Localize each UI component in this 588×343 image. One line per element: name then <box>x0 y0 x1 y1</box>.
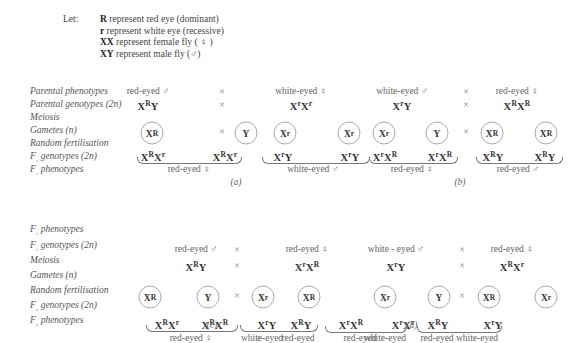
female-genotype: XrXr <box>290 99 313 112</box>
group-brace <box>240 325 318 332</box>
gamete-circle: XR <box>481 122 504 145</box>
cross-symbol: × <box>234 290 240 301</box>
row-label: Meiosis <box>30 255 60 265</box>
phenotype-label: red-eyed <box>281 333 314 343</box>
male-genotype: XrY <box>386 260 405 273</box>
cross-symbol: × <box>234 244 240 255</box>
female-phenotype: red-eyed ♀ <box>286 244 329 254</box>
row-label: F₁ genotypes (2n) <box>30 151 97 163</box>
phenotype-label: red-eyed ♀ <box>170 333 213 343</box>
group-brace <box>369 157 458 164</box>
phenotype-label: white-eyed <box>241 333 283 343</box>
gamete-circle: Xr <box>374 286 397 309</box>
cross-symbol: × <box>459 290 465 301</box>
sex-symbol: ♂ <box>254 333 262 343</box>
gamete-circle: Xr <box>338 122 361 145</box>
row-label: F₁ phenotypes <box>30 224 83 236</box>
group-brace <box>146 325 238 332</box>
row-label: Random fertilisation <box>30 138 108 148</box>
cross-symbol: × <box>459 244 465 255</box>
group-brace <box>325 326 407 333</box>
row-label: Gametes (n) <box>30 270 77 280</box>
row-label: Parental genotypes (2n) <box>30 99 121 109</box>
gamete-circle: Xr <box>373 122 396 145</box>
gamete-circle: Y <box>426 122 449 145</box>
cross-symbol: × <box>463 126 469 137</box>
group-label: red-eyed ♀ <box>391 164 434 174</box>
male-phenotype: white-eyed ♂ <box>376 86 428 96</box>
male-genotype: XRY <box>185 260 206 273</box>
gamete-circle: XR <box>139 286 162 309</box>
female-genotype: XRXR <box>504 99 531 112</box>
row-label: F₂ genotypes (2n) <box>30 300 97 312</box>
cross-symbol: × <box>234 260 240 271</box>
male-genotype: XRY <box>137 99 158 112</box>
phenotype-label: white-eyed <box>456 333 498 343</box>
panel-caption: (d) <box>406 320 417 330</box>
gamete-circle: XR <box>478 286 501 309</box>
male-phenotype: white - eyed ♂ <box>368 244 424 254</box>
female-phenotype: white-eyed ♀ <box>275 86 327 96</box>
group-brace <box>262 157 370 164</box>
group-brace <box>476 157 563 164</box>
panel-caption: (a) <box>230 177 241 187</box>
cross-symbol: × <box>219 99 225 110</box>
gamete-circle: Y <box>197 286 220 309</box>
female-genotype: XrXR <box>295 260 320 273</box>
group-brace <box>137 157 242 164</box>
male-phenotype: red-eyed ♂ <box>127 86 170 96</box>
group-brace <box>417 326 502 333</box>
gamete-circle: Xr <box>274 122 297 145</box>
cross-symbol: × <box>463 99 469 110</box>
panel-caption: (c) <box>207 320 218 330</box>
phenotype-label: white-eyed <box>364 333 406 343</box>
row-label: Meiosis <box>30 112 60 122</box>
row-label: F₂ phenotypes <box>30 315 83 327</box>
male-phenotype: red-eyed ♂ <box>175 244 218 254</box>
cross-symbol: × <box>463 86 469 97</box>
group-label: red-eyed ♀ <box>168 164 211 174</box>
gamete-circle: XR <box>535 122 558 145</box>
female-phenotype: red-eyed ♀ <box>496 86 539 96</box>
gamete-circle: XR <box>141 122 164 145</box>
cross-symbol: × <box>219 126 225 137</box>
male-genotype: XrY <box>392 99 411 112</box>
phenotype-label: red-eyed <box>420 333 453 343</box>
legend-let: Let: <box>63 14 78 26</box>
row-label: Gametes (n) <box>30 125 77 135</box>
panel-caption: (b) <box>454 177 465 187</box>
legend-line: XY represent male fly (♂) <box>100 49 201 61</box>
legend-line: r represent white eye (recessive) <box>100 26 224 38</box>
cross-symbol: × <box>219 86 225 97</box>
cross-symbol: × <box>459 260 465 271</box>
gamete-circle: Xr <box>535 286 558 309</box>
group-label: white-eyed ♂ <box>287 164 339 174</box>
legend-line: XX represent female fly ( ♀ ) <box>100 37 213 49</box>
gamete-circle: Y <box>428 286 451 309</box>
row-label: Random fertilisation <box>30 285 108 295</box>
group-label: red-eyed ♂ <box>497 164 540 174</box>
legend-line: R represent red eye (dominant) <box>100 14 219 26</box>
row-label: F₁ genotypes (2n) <box>30 240 97 252</box>
row-label: Parental phenotypes <box>30 86 108 96</box>
female-genotype: XRXr <box>500 260 525 273</box>
gamete-circle: XR <box>298 286 321 309</box>
row-label: F₁ phenotypes <box>30 164 83 176</box>
gamete-circle: Y <box>235 122 258 145</box>
female-phenotype: red-eyed ♀ <box>491 244 534 254</box>
gamete-circle: Xr <box>252 286 275 309</box>
